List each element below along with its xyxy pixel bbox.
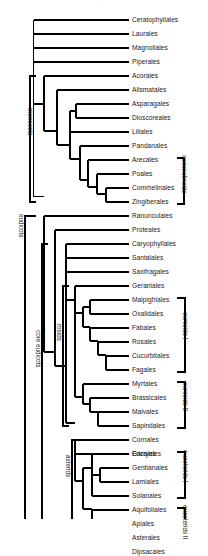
tip-label: Dipsacales [132,549,165,556]
tip-label: Gentianales [132,465,168,472]
tip-label: Oxalidales [132,311,163,318]
clade-label-asterids: asterids [65,455,71,477]
tip-label: Fabales [132,325,156,332]
bracket-label-euasterids-ii: euasterids II [182,505,188,539]
tip-label: Malpighiales [132,297,169,304]
tip-label: Fagales [132,367,156,374]
tip-label: Sapindales [132,423,165,430]
tip-label: Magnoliales [132,45,168,52]
tip-label: Alismatales [132,87,166,94]
tip-label: Lamiales [132,479,159,486]
tip-label: Poales [132,171,152,178]
tip-label: Myrtales [132,381,157,388]
tip-label: Malvales [132,409,158,416]
tip-label: Solanales [132,493,161,500]
tip-label: Saxifragales [132,269,169,276]
tip-label: Santalales [132,255,163,262]
tip-label: Cornales [132,437,159,444]
clade-label-eudicots: eudicots [18,214,24,237]
clade-label-rosids: rosids [56,324,62,341]
bracket-label-eurosids-ii: eurosids II [182,382,188,411]
tip-label: Garryales [132,451,161,458]
tip-label: Caryophyllales [132,241,176,248]
tip-label: Laurales [132,31,158,38]
tip-label: Liliales [132,129,153,136]
tip-label: Ranunculales [132,213,173,220]
tip-label: Cucurbitales [132,353,169,360]
clade-label-monocots: monocots [27,108,33,135]
tip-label: Aquifoliales [132,507,166,514]
tip-label: Rosales [132,339,156,346]
tip-label: Apiales [132,521,154,528]
bracket-label-commelinoids: commelinoids [181,155,187,194]
bracket-label-euasterids-i: euasterids I [182,450,188,483]
tip-label: Pandanales [132,143,167,150]
tip-label: Proteales [132,227,160,234]
clade-label-core-eudicots: core eudicots [35,330,41,367]
bracket-label-eurosids-i: eurosids I [182,312,188,339]
tip-label: Arecales [132,157,158,164]
tip-label: Brassicales [132,395,166,402]
tip-label: Dioscoreales [132,115,171,122]
tip-label: Commelinales [132,185,174,192]
tip-label: Piperales [132,59,160,66]
tip-label: Asterales [132,535,160,542]
tip-label: Asparagales [132,101,169,108]
tip-label: Geraniales [132,283,164,290]
tip-label: Acorales [132,73,158,80]
tip-label: Ceratophyllales [132,17,178,24]
tip-label: Zingiberales [132,199,169,206]
